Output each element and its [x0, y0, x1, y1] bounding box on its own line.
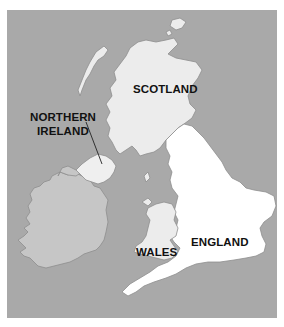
region-islands-west [78, 46, 108, 96]
label-northern-ireland-line1: NORTHERN [30, 111, 96, 124]
region-isle-of-man [144, 172, 150, 182]
map-graphic [7, 10, 277, 318]
region-islands-north [166, 18, 186, 36]
label-wales: WALES [136, 246, 177, 259]
region-ireland [18, 172, 108, 268]
region-anglesey [142, 198, 152, 206]
label-england: ENGLAND [191, 236, 249, 249]
label-northern-ireland-line2: IRELAND [37, 125, 89, 138]
label-scotland: SCOTLAND [133, 83, 198, 96]
map-frame: SCOTLAND NORTHERN IRELAND WALES ENGLAND [7, 10, 277, 318]
